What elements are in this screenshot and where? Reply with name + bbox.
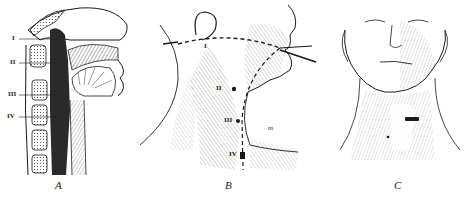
label-b-i: I [204, 42, 207, 50]
label-b-m: m [268, 124, 273, 132]
panel-a: I II III IV A [0, 0, 130, 197]
label-a-iv: IV [7, 112, 15, 120]
label-a-i: I [12, 34, 15, 42]
label-b-ii: II [216, 84, 221, 92]
lateral-neck-illustration [130, 0, 320, 197]
caption-b: B [225, 179, 232, 191]
label-b-iv: IV [229, 150, 237, 158]
label-a-iii: III [8, 90, 16, 98]
sagittal-section-illustration [0, 0, 130, 197]
panel-c: C [320, 0, 468, 197]
frontal-face-neck-illustration [320, 0, 468, 197]
caption-c: C [394, 179, 401, 191]
label-b-iii: III [224, 116, 232, 124]
caption-a: A [55, 179, 62, 191]
panel-b: I II III IV m B [130, 0, 320, 197]
label-a-ii: II [10, 58, 15, 66]
